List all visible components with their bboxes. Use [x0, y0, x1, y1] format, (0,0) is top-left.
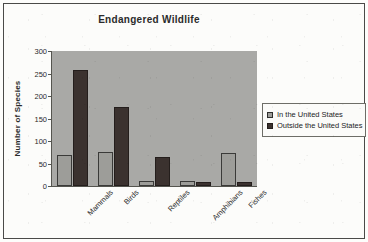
- y-axis-tick-mark: [48, 51, 51, 52]
- y-axis-tick-label: 200: [34, 92, 47, 101]
- bars-layer: [52, 51, 257, 186]
- x-axis-label: Birds: [122, 188, 140, 206]
- bar-group: [216, 51, 257, 186]
- bar-group: [134, 51, 175, 186]
- y-axis-tick-label: 250: [34, 69, 47, 78]
- y-axis-tick-mark: [48, 119, 51, 120]
- bar: [180, 181, 195, 186]
- bar-group: [175, 51, 216, 186]
- y-axis-tick-mark: [48, 96, 51, 97]
- y-axis-tick-mark: [48, 74, 51, 75]
- x-axis-label: Amphibians: [211, 188, 245, 222]
- legend-label: In the United States: [277, 110, 343, 119]
- y-axis-tick-label: 300: [34, 47, 47, 56]
- page-frame: Endangered Wildlife Number of Species 05…: [3, 3, 365, 239]
- y-axis-title: Number of Species: [13, 51, 25, 186]
- bar: [73, 70, 88, 186]
- legend-swatch-icon: [267, 112, 273, 118]
- bar: [98, 152, 113, 186]
- y-axis-tick-mark: [48, 141, 51, 142]
- y-axis-tick-label: 0: [43, 182, 47, 191]
- bar: [139, 181, 154, 186]
- bar-group: [93, 51, 134, 186]
- legend-item: In the United States: [267, 110, 362, 119]
- legend-swatch-icon: [267, 123, 273, 129]
- x-axis-label: Fishes: [247, 188, 269, 210]
- plot-area: 050100150200250300: [51, 51, 257, 187]
- chart-title: Endangered Wildlife: [4, 14, 294, 25]
- bar-group: [52, 51, 93, 186]
- bar: [196, 182, 211, 186]
- y-axis-tick-label: 150: [34, 114, 47, 123]
- bar: [155, 157, 170, 186]
- x-axis-label: Reptiles: [166, 188, 192, 214]
- x-axis-label: Mammals: [86, 188, 115, 217]
- x-axis-labels: MammalsBirdsReptilesAmphibiansFishes: [51, 188, 256, 238]
- legend-item: Outside the United States: [267, 121, 362, 130]
- y-axis-tick-label: 100: [34, 137, 47, 146]
- bar: [237, 182, 252, 187]
- chart-legend: In the United StatesOutside the United S…: [262, 103, 366, 137]
- legend-label: Outside the United States: [277, 121, 362, 130]
- y-axis-tick-label: 50: [39, 159, 47, 168]
- y-axis-tick-mark: [48, 186, 51, 187]
- bar: [221, 153, 236, 186]
- chart-page: Endangered Wildlife Number of Species 05…: [0, 0, 368, 242]
- bar: [114, 107, 129, 186]
- bar: [57, 155, 72, 186]
- y-axis-tick-mark: [48, 164, 51, 165]
